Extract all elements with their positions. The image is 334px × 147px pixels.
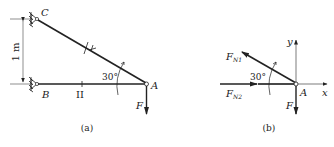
panel-a: 1 m C B II 30° A: [10, 7, 158, 133]
joint-a: [145, 82, 149, 86]
pin-support-c-icon: [29, 12, 39, 27]
angle-label-b: 30°: [250, 72, 266, 82]
x-axis-label: x: [322, 87, 328, 98]
label-c: C: [41, 7, 49, 18]
label-f-b: F: [285, 100, 294, 111]
dimension-label: 1 m: [10, 42, 21, 62]
label-b: B: [41, 89, 49, 100]
caption-b: (b): [263, 123, 276, 133]
label-fn2: FN2: [225, 88, 242, 100]
joint-a-b: [294, 82, 298, 86]
label-a: A: [150, 80, 158, 91]
member-ii-label: II: [76, 89, 84, 100]
label-f: F: [135, 100, 144, 111]
y-axis-label: y: [286, 36, 293, 47]
truss-diagram: 1 m C B II 30° A: [0, 0, 334, 147]
pin-support-b-icon: [29, 77, 39, 92]
angle-label: 30°: [102, 72, 118, 82]
angle-arc-b: [269, 62, 276, 95]
member-ca: [38, 20, 146, 83]
label-a-b: A: [299, 87, 307, 98]
label-fn1: FN1: [225, 51, 242, 63]
caption-a: (a): [81, 123, 93, 133]
panel-b: y x FN1 FN2 30° A F (b): [220, 36, 328, 133]
